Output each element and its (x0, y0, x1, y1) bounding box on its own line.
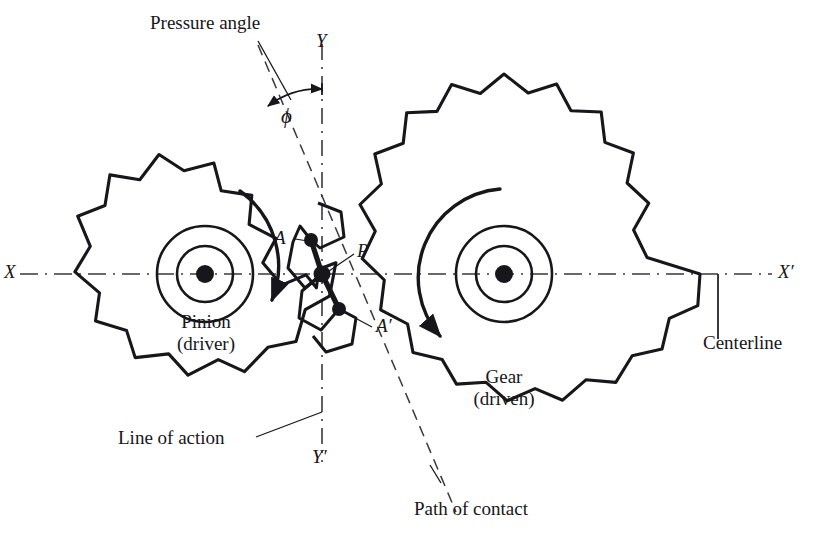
gear-tooth-outline (360, 74, 700, 401)
gear-shaft-center-dot (495, 265, 513, 283)
point-p-label: P (357, 240, 369, 262)
gear-label: Gear (driven) (441, 366, 567, 411)
leader-path-of-contact (430, 465, 441, 483)
line-of-action-label: Line of action (118, 427, 225, 449)
pressure-angle-label: Pressure angle (150, 12, 260, 34)
pitch-point-p-marker (314, 266, 331, 283)
pinion-label: Pinion (driver) (142, 311, 270, 356)
centerline-label: Centerline (703, 332, 782, 354)
leader-line-of-action (256, 412, 322, 437)
point-a-label: A (274, 227, 286, 249)
axis-y-bottom-label: Y′ (312, 446, 327, 468)
leader-point-a-prime (344, 312, 372, 327)
axis-x-right-label: X′ (778, 261, 794, 283)
pinion-label-line1: Pinion (142, 311, 270, 333)
path-of-contact-label: Path of contact (414, 498, 528, 520)
gear-mesh-diagram: Pressure angle ϕ Y Y′ X X′ A P A′ Pinion… (0, 0, 815, 543)
phi-symbol-label: ϕ (281, 104, 292, 129)
gear-rotation-arrow (418, 189, 500, 336)
diagram-canvas (0, 0, 815, 543)
leader-pressure-angle (258, 41, 291, 100)
gear-label-line1: Gear (441, 366, 567, 388)
contact-point-a-prime-marker (332, 302, 346, 316)
axis-y-top-label: Y (316, 30, 327, 52)
pinion-shaft-center-dot (196, 265, 214, 283)
gear-label-line2: (driven) (441, 388, 567, 410)
point-a-prime-label: A′ (376, 315, 392, 337)
pinion-label-line2: (driver) (142, 333, 270, 355)
driven-gear (360, 74, 700, 401)
pressure-angle-arc-line (268, 89, 322, 106)
axis-x-left-label: X (4, 261, 16, 283)
contact-point-a-marker (304, 233, 318, 247)
